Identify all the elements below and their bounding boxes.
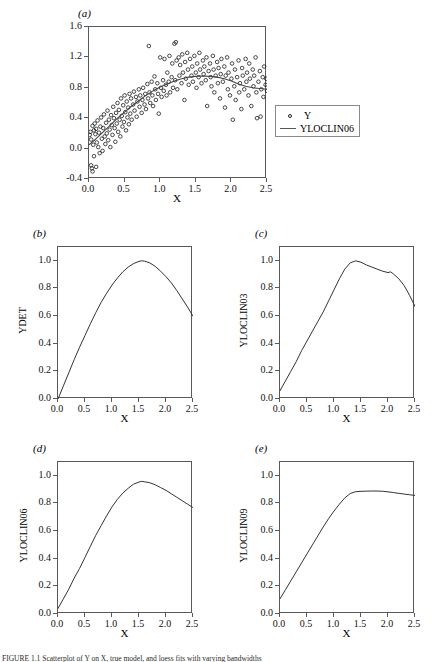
- y-tick-label: -0.4: [48, 172, 82, 183]
- panel-d-x-axis-title: X: [57, 627, 192, 639]
- x-tick-mark: [387, 398, 388, 402]
- y-tick-mark: [84, 178, 88, 179]
- panel-e-plot-frame: [279, 461, 414, 613]
- y-tick-label: 1.0: [239, 469, 273, 480]
- x-tick-mark: [88, 178, 89, 182]
- figure-caption: FIGURE 1.1 Scatterplot of Y on X, true m…: [2, 655, 435, 662]
- y-tick-label: 0.0: [17, 392, 51, 403]
- y-tick-label: 0.2: [239, 364, 273, 375]
- x-tick-mark: [192, 398, 193, 402]
- y-tick-label: 0.0: [17, 607, 51, 618]
- x-tick-mark: [360, 398, 361, 402]
- x-tick-mark: [57, 398, 58, 402]
- y-tick-mark: [53, 613, 57, 614]
- panel-d: (d) 0.00.51.01.52.02.50.00.20.40.60.81.0…: [0, 430, 215, 645]
- x-tick-mark: [360, 613, 361, 617]
- panel-c-x-axis-title: X: [279, 412, 414, 424]
- y-tick-mark: [53, 343, 57, 344]
- y-tick-label: 1.6: [48, 20, 82, 31]
- y-tick-label: 1.2: [48, 50, 82, 61]
- y-tick-mark: [84, 56, 88, 57]
- panel-b-y-axis-title: YDET: [17, 281, 28, 361]
- panel-a-x-axis-title: X: [88, 192, 266, 204]
- y-tick-label: 1.0: [17, 254, 51, 265]
- x-tick-mark: [387, 613, 388, 617]
- legend-label-y: Y: [304, 110, 311, 121]
- legend-row-yloclin06: YLOCLIN06: [280, 122, 353, 135]
- x-tick-mark: [165, 398, 166, 402]
- legend-row-y: Y: [280, 109, 353, 122]
- panel-e-y-axis-title: YLOCLIN09: [238, 496, 249, 576]
- panel-c-plot-frame: [279, 246, 414, 398]
- line-marker-icon: [280, 128, 296, 129]
- x-tick-mark: [230, 178, 231, 182]
- x-tick-mark: [124, 178, 125, 182]
- y-tick-mark: [275, 315, 279, 316]
- panel-a-plot-frame: [88, 26, 266, 178]
- x-tick-mark: [192, 613, 193, 617]
- y-tick-mark: [53, 585, 57, 586]
- panel-e-letter: (e): [255, 442, 267, 454]
- panel-d-data-area: [58, 462, 193, 614]
- x-tick-mark: [84, 613, 85, 617]
- y-tick-mark: [275, 502, 279, 503]
- y-tick-mark: [275, 260, 279, 261]
- panel-a-letter: (a): [78, 7, 91, 19]
- panel-d-letter: (d): [33, 442, 46, 454]
- figure-container: (a) 0.00.51.01.52.02.5-0.40.00.40.81.21.…: [0, 0, 435, 662]
- x-tick-mark: [111, 398, 112, 402]
- x-tick-mark: [333, 613, 334, 617]
- panel-c-data-area: [280, 247, 415, 399]
- panel-c-y-axis-title: YLOCLIN03: [238, 281, 249, 361]
- panel-b-x-axis-title: X: [57, 412, 192, 424]
- panel-c-letter: (c): [255, 227, 267, 239]
- x-tick-mark: [84, 398, 85, 402]
- y-tick-label: 0.2: [239, 579, 273, 590]
- y-tick-mark: [84, 148, 88, 149]
- x-tick-mark: [279, 398, 280, 402]
- y-tick-mark: [53, 475, 57, 476]
- y-tick-label: 1.0: [17, 469, 51, 480]
- y-tick-mark: [84, 87, 88, 88]
- y-tick-label: 0.2: [17, 579, 51, 590]
- panel-e-x-axis-title: X: [279, 627, 414, 639]
- y-tick-mark: [53, 398, 57, 399]
- y-tick-mark: [53, 530, 57, 531]
- panel-a-data-area: [89, 27, 267, 179]
- y-tick-label: 1.0: [239, 254, 273, 265]
- x-tick-mark: [195, 178, 196, 182]
- y-tick-mark: [53, 287, 57, 288]
- x-tick-mark: [279, 613, 280, 617]
- x-tick-mark: [414, 613, 415, 617]
- y-tick-mark: [275, 530, 279, 531]
- x-tick-mark: [57, 613, 58, 617]
- y-tick-label: 0.8: [48, 81, 82, 92]
- x-tick-mark: [165, 613, 166, 617]
- panel-e: (e) 0.00.51.01.52.02.50.00.20.40.60.81.0…: [215, 430, 435, 645]
- x-tick-mark: [306, 398, 307, 402]
- y-tick-label: 0.2: [17, 364, 51, 375]
- circle-marker-icon: [280, 114, 300, 118]
- panel-b: (b) 0.00.51.01.52.02.50.00.20.40.60.81.0…: [0, 215, 215, 430]
- y-tick-mark: [275, 370, 279, 371]
- y-tick-mark: [53, 260, 57, 261]
- y-tick-mark: [275, 475, 279, 476]
- y-tick-mark: [275, 343, 279, 344]
- panel-d-y-axis-title: YLOCLIN06: [18, 491, 29, 581]
- y-tick-label: 0.0: [48, 142, 82, 153]
- y-tick-mark: [53, 558, 57, 559]
- legend-label-yloclin06: YLOCLIN06: [300, 123, 354, 134]
- y-tick-mark: [275, 287, 279, 288]
- x-tick-mark: [306, 613, 307, 617]
- x-tick-mark: [266, 178, 267, 182]
- y-tick-mark: [53, 502, 57, 503]
- y-tick-mark: [84, 117, 88, 118]
- y-tick-mark: [275, 558, 279, 559]
- y-tick-label: 0.0: [239, 392, 273, 403]
- x-tick-mark: [414, 398, 415, 402]
- y-tick-mark: [275, 613, 279, 614]
- y-tick-mark: [275, 585, 279, 586]
- y-tick-mark: [84, 26, 88, 27]
- y-tick-mark: [53, 315, 57, 316]
- y-tick-label: 0.4: [48, 111, 82, 122]
